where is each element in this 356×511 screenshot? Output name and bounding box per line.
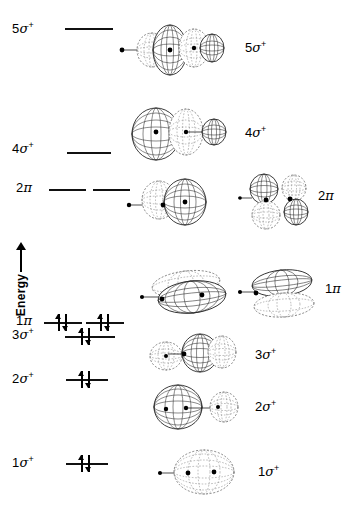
level-label-2sigma-sup: + <box>29 370 34 380</box>
orbital-label-2sigma: 2σ+ <box>255 399 276 413</box>
spin-up-arrow-icon <box>78 371 85 388</box>
level-label-3sigma: 3σ+ <box>12 327 34 341</box>
spin-up-arrow-icon <box>97 314 104 331</box>
orbital-picture-2sigma <box>152 382 246 432</box>
level-label-5sigma-greek: σ <box>19 21 28 36</box>
spin-down-arrow-icon <box>62 314 69 331</box>
orbital-label-1sigma-greek: σ <box>265 464 274 479</box>
level-label-4sigma-greek: σ <box>19 141 28 156</box>
orbital-picture-1pi-left <box>140 264 244 322</box>
orbital-label-1pi: 1π <box>325 282 341 295</box>
mo-diagram-figure: Energy 5σ+ 4σ+ 2π 1π 3σ+ 2σ+ <box>0 0 356 511</box>
orbital-picture-3sigma <box>148 328 244 380</box>
level-label-2pi-greek: π <box>23 180 32 195</box>
orbital-picture-5sigma <box>118 12 236 84</box>
spin-down-arrow-icon <box>104 314 111 331</box>
orbital-label-1pi-greek: π <box>332 281 341 296</box>
electron-pair-1sigma-1 <box>78 455 93 472</box>
orbital-picture-4sigma <box>128 98 240 166</box>
electron-pair-1pi-1 <box>55 314 70 331</box>
up-arrow-icon <box>16 242 26 250</box>
level-label-5sigma-sup: + <box>29 20 34 30</box>
level-label-5sigma: 5σ+ <box>12 21 34 35</box>
orbital-label-3sigma: 3σ+ <box>255 347 276 361</box>
level-line-2pi-1 <box>49 189 86 191</box>
orbital-label-4sigma: 4σ+ <box>245 125 266 139</box>
spin-down-arrow-icon <box>85 371 92 388</box>
orbital-picture-1sigma <box>158 446 244 498</box>
spin-down-arrow-icon <box>85 455 92 472</box>
level-label-4sigma-sup: + <box>29 140 34 150</box>
orbital-label-2pi-greek: π <box>325 188 334 203</box>
level-line-4sigma-1 <box>67 152 111 154</box>
spin-down-arrow-icon <box>85 328 92 345</box>
level-label-3sigma-sup: + <box>29 326 34 336</box>
orbital-label-2sigma-greek: σ <box>262 399 271 414</box>
electron-pair-3sigma-1 <box>78 328 93 345</box>
level-label-4sigma: 4σ+ <box>12 141 34 155</box>
level-label-2pi: 2π <box>16 181 32 194</box>
orbital-label-1sigma: 1σ+ <box>258 464 279 478</box>
level-label-1sigma-sup: + <box>29 454 34 464</box>
orbital-label-5sigma-greek: σ <box>252 40 261 55</box>
level-label-1sigma-greek: σ <box>19 455 28 470</box>
level-label-3sigma-greek: σ <box>19 327 28 342</box>
spin-up-arrow-icon <box>78 455 85 472</box>
level-label-2sigma: 2σ+ <box>12 371 34 385</box>
electron-pair-1pi-2 <box>97 314 112 331</box>
orbital-label-3sigma-greek: σ <box>262 347 271 362</box>
level-line-5sigma-1 <box>65 28 113 30</box>
orbital-picture-1pi-right <box>238 265 322 321</box>
electron-pair-2sigma-1 <box>78 371 93 388</box>
orbital-label-1sigma-sup: + <box>274 463 279 473</box>
level-label-1sigma: 1σ+ <box>12 455 34 469</box>
orbital-label-3sigma-sup: + <box>271 346 276 356</box>
orbital-label-4sigma-sup: + <box>261 124 266 134</box>
spin-up-arrow-icon <box>78 328 85 345</box>
orbital-picture-2pi-right <box>238 170 324 234</box>
orbital-label-5sigma: 5σ+ <box>245 40 266 54</box>
orbital-label-5sigma-sup: + <box>261 39 266 49</box>
level-label-2sigma-greek: σ <box>19 371 28 386</box>
orbital-label-4sigma-greek: σ <box>252 125 261 140</box>
orbital-label-2pi: 2π <box>318 189 334 202</box>
orbital-picture-2pi-left <box>125 172 230 234</box>
spin-up-arrow-icon <box>55 314 62 331</box>
orbital-label-2sigma-sup: + <box>271 398 276 408</box>
